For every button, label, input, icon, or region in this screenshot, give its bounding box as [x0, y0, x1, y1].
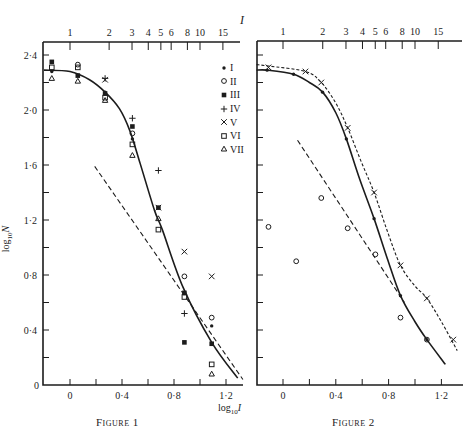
- cross-marker-icon: [182, 249, 188, 255]
- circle-marker-icon: [209, 315, 214, 320]
- figure-2-caption: Figure 2: [332, 416, 375, 428]
- curve-dashed: [95, 166, 243, 379]
- plus-marker-icon: [221, 105, 227, 111]
- axes-frame: [257, 41, 463, 385]
- triangle-marker-icon: [219, 144, 229, 154]
- triangle-marker-icon: [49, 76, 54, 81]
- legend-item: IV: [219, 102, 249, 116]
- circle-marker-icon: [222, 79, 227, 84]
- legend-item: III: [219, 88, 249, 102]
- triangle-marker-icon: [209, 371, 214, 376]
- top-tick-label: 10: [410, 26, 420, 37]
- plus-marker-icon: [155, 167, 161, 173]
- filled-square-marker-icon: [182, 340, 187, 345]
- cross-marker-icon: [219, 117, 229, 127]
- filled-square-marker-icon: [222, 93, 227, 98]
- cross-marker-icon: [318, 80, 324, 86]
- top-tick-label: 4: [146, 27, 151, 38]
- top-tick-label: 2: [320, 26, 325, 37]
- axes-frame: [43, 42, 243, 385]
- legend-item: V: [219, 115, 249, 129]
- top-tick-label: 15: [218, 27, 228, 38]
- cross-marker-icon: [424, 296, 430, 302]
- top-tick-label: 3: [343, 26, 348, 37]
- top-tick-label: 8: [400, 26, 405, 37]
- dot-marker-icon: [292, 73, 295, 76]
- x-tick-label: 0·8: [382, 390, 395, 401]
- y-tick-label: 0·8: [24, 270, 37, 281]
- top-tick-label: 1: [281, 26, 286, 37]
- top-tick-label: 2: [107, 27, 112, 38]
- dot-marker-icon: [210, 324, 213, 327]
- curve-dotted: [257, 65, 458, 351]
- figure-2: 00·40·81·212345681015: [257, 26, 463, 401]
- dot-marker-icon: [425, 338, 428, 341]
- circle-marker-icon: [294, 259, 299, 264]
- x-axis-label: log10I: [218, 402, 241, 416]
- top-tick-label: 4: [360, 26, 365, 37]
- top-tick-label: 1: [68, 27, 73, 38]
- filled-square-marker-icon: [50, 60, 55, 65]
- y-tick-label: 1·2: [24, 215, 37, 226]
- figure-1: 00·40·81·200·40·81·21·62·02·412345681015: [24, 27, 243, 401]
- dot-marker-icon: [321, 90, 324, 93]
- plus-marker-icon: [219, 104, 229, 114]
- plus-marker-icon: [102, 75, 108, 81]
- legend-item: II: [219, 75, 249, 89]
- dot-marker-icon: [372, 217, 375, 220]
- open-square-marker-icon: [209, 362, 214, 367]
- triangle-marker-icon: [221, 147, 226, 152]
- top-tick-label: 5: [373, 26, 378, 37]
- circle-marker-icon: [219, 76, 229, 86]
- x-tick-label: 0: [68, 390, 73, 401]
- cross-marker-icon: [221, 119, 227, 125]
- x-tick-label: 0: [281, 390, 286, 401]
- open-square-marker-icon: [50, 65, 55, 70]
- top-tick-label: 5: [158, 27, 163, 38]
- triangle-marker-icon: [75, 78, 80, 83]
- cross-marker-icon: [450, 337, 456, 343]
- filled-square-marker-icon: [219, 90, 229, 100]
- circle-marker-icon: [345, 226, 350, 231]
- circle-marker-icon: [398, 315, 403, 320]
- cross-marker-icon: [209, 274, 215, 280]
- circle-marker-icon: [266, 224, 271, 229]
- y-tick-label: 1·6: [24, 160, 37, 171]
- open-square-marker-icon: [222, 133, 227, 138]
- curve-solid: [44, 70, 238, 378]
- y-tick-label: 2·4: [24, 50, 37, 61]
- legend-item: I: [219, 61, 249, 75]
- x-tick-label: 1·2: [219, 390, 232, 401]
- x-tick-label: 1·2: [435, 390, 448, 401]
- y-tick-label: 0: [34, 380, 39, 391]
- filled-square-marker-icon: [209, 341, 214, 346]
- legend-item: VI: [219, 129, 249, 143]
- circle-marker-icon: [182, 274, 187, 279]
- curve-solid: [257, 70, 446, 365]
- filled-square-marker-icon: [130, 124, 135, 129]
- figure-1-caption: Figure 1: [96, 416, 139, 428]
- top-tick-label: 3: [130, 27, 135, 38]
- cross-marker-icon: [371, 190, 377, 196]
- circle-marker-icon: [319, 196, 324, 201]
- plus-marker-icon: [181, 310, 187, 316]
- cross-marker-icon: [398, 263, 404, 269]
- legend: I II III IV V VI VII: [219, 61, 249, 156]
- top-tick-label: 6: [383, 26, 388, 37]
- x-tick-label: 0·4: [115, 390, 128, 401]
- dot-marker-icon: [222, 66, 225, 69]
- y-axis-label: log10N: [0, 226, 14, 252]
- y-tick-label: 2·0: [24, 105, 37, 116]
- circle-marker-icon: [373, 252, 378, 257]
- curve-dashed: [298, 140, 405, 302]
- open-square-marker-icon: [219, 131, 229, 141]
- x-tick-label: 0·4: [329, 390, 342, 401]
- legend-item: VII: [219, 143, 249, 157]
- top-tick-label: 10: [195, 27, 205, 38]
- open-square-marker-icon: [156, 227, 161, 232]
- cross-marker-icon: [345, 125, 351, 131]
- dot-marker-icon: [50, 70, 53, 73]
- plus-marker-icon: [129, 115, 135, 121]
- top-tick-label: 15: [433, 26, 443, 37]
- filled-square-marker-icon: [76, 73, 81, 78]
